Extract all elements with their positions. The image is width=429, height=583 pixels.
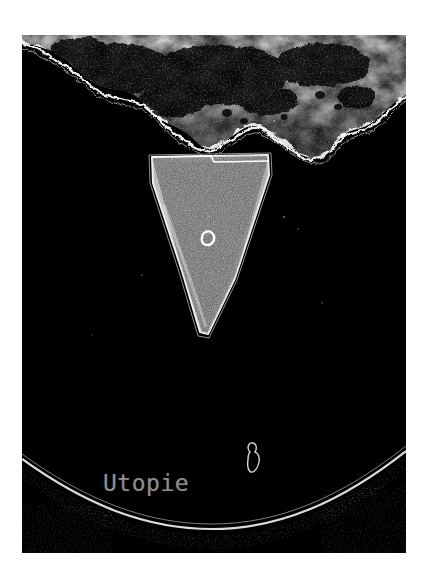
wedge-shape	[142, 147, 282, 347]
artwork-canvas: Utopie	[0, 0, 429, 583]
artwork-illustration	[22, 35, 406, 553]
photographic-plate: Utopie	[22, 35, 406, 553]
artwork-caption: Utopie	[103, 472, 189, 495]
